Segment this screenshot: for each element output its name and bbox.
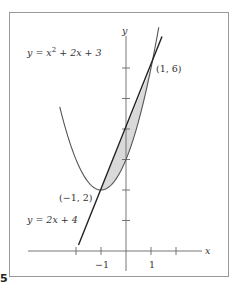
y-axis-label: y: [121, 25, 128, 36]
line-equation-label: y = 2x + 4: [26, 214, 78, 225]
figure-canvas: x y −1 1 y = x2 + 2x + 3 y = 2x + 4 (1, …: [0, 0, 233, 288]
line-curve: [79, 37, 163, 246]
figure-number: 5: [0, 272, 8, 285]
x-tick-label-neg1: −1: [95, 259, 109, 270]
parabola-equation-label: y = x2 + 2x + 3: [26, 46, 102, 58]
point-label-neg1-2: (−1, 2): [59, 192, 93, 203]
x-tick-label-1: 1: [149, 259, 155, 270]
x-axis-label: x: [205, 245, 211, 256]
point-label-1-6: (1, 6): [156, 63, 182, 74]
